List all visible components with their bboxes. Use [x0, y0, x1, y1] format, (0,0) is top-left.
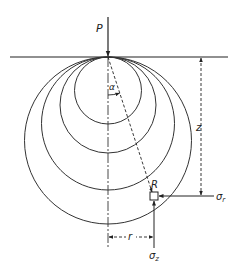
load-label: P — [96, 22, 103, 35]
element-square — [150, 192, 158, 200]
vertical-stress-label: σz — [149, 250, 159, 263]
radius-line — [108, 57, 152, 192]
stress-bulb-diagram: P α R z σr σz r — [0, 0, 242, 270]
radial-stress-label: σr — [216, 191, 226, 204]
point-R-label: R — [151, 179, 158, 190]
angle-label: α — [109, 82, 115, 92]
depth-label: z — [195, 122, 202, 133]
angle-arc — [108, 93, 120, 95]
